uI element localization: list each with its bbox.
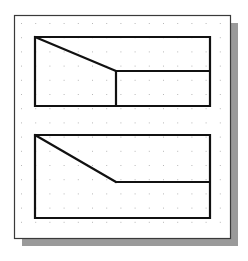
grid-dot bbox=[120, 94, 121, 95]
grid-dot bbox=[120, 51, 121, 52]
grid-dot bbox=[220, 66, 221, 67]
grid-dot bbox=[135, 80, 136, 81]
grid-dot bbox=[21, 165, 22, 166]
grid-dot bbox=[49, 51, 50, 52]
grid-dot bbox=[149, 165, 150, 166]
grid-dot bbox=[64, 122, 65, 123]
grid-dot bbox=[78, 108, 79, 109]
grid-dot bbox=[92, 193, 93, 194]
grid-dot bbox=[135, 137, 136, 138]
grid-dot bbox=[78, 151, 79, 152]
grid-dot bbox=[206, 137, 207, 138]
grid-dot bbox=[191, 208, 192, 209]
grid-dot bbox=[220, 94, 221, 95]
grid-dot bbox=[64, 165, 65, 166]
grid-dot bbox=[163, 222, 164, 223]
grid-dot bbox=[206, 193, 207, 194]
grid-dot bbox=[206, 179, 207, 180]
grid-dot bbox=[120, 165, 121, 166]
grid-dot bbox=[163, 23, 164, 24]
grid-dot bbox=[64, 66, 65, 67]
grid-dot bbox=[220, 37, 221, 38]
grid-dot bbox=[206, 80, 207, 81]
grid-dot bbox=[177, 66, 178, 67]
grid-dot bbox=[21, 179, 22, 180]
grid-dot bbox=[220, 179, 221, 180]
grid-dot bbox=[92, 108, 93, 109]
grid-dot bbox=[78, 137, 79, 138]
grid-dot bbox=[106, 51, 107, 52]
grid-dot bbox=[106, 80, 107, 81]
grid-dot bbox=[78, 94, 79, 95]
grid-dot bbox=[49, 193, 50, 194]
grid-dot bbox=[120, 151, 121, 152]
grid-dot bbox=[135, 23, 136, 24]
grid-dot bbox=[106, 23, 107, 24]
grid-dot bbox=[78, 208, 79, 209]
grid-dot bbox=[191, 94, 192, 95]
grid-dot bbox=[92, 51, 93, 52]
grid-dot bbox=[163, 108, 164, 109]
grid-dot bbox=[191, 165, 192, 166]
grid-dot bbox=[149, 80, 150, 81]
grid-dot bbox=[106, 94, 107, 95]
grid-dot bbox=[149, 179, 150, 180]
grid-dot bbox=[177, 179, 178, 180]
grid-dot bbox=[78, 122, 79, 123]
grid-dot bbox=[177, 208, 178, 209]
grid-dot bbox=[49, 80, 50, 81]
grid-dot bbox=[149, 151, 150, 152]
grid-dot bbox=[92, 94, 93, 95]
grid-dot bbox=[163, 151, 164, 152]
grid-dot bbox=[149, 208, 150, 209]
grid-dot bbox=[163, 122, 164, 123]
grid-dot bbox=[177, 108, 178, 109]
grid-dot bbox=[92, 23, 93, 24]
grid-dot bbox=[135, 193, 136, 194]
grid-dot bbox=[92, 165, 93, 166]
grid-dot bbox=[149, 66, 150, 67]
drawing-frame bbox=[15, 16, 231, 239]
grid-dot bbox=[49, 151, 50, 152]
grid-dot bbox=[92, 179, 93, 180]
grid-dot bbox=[206, 23, 207, 24]
grid-dot bbox=[149, 94, 150, 95]
grid-dot bbox=[64, 108, 65, 109]
grid-dot bbox=[78, 80, 79, 81]
grid-dot bbox=[177, 94, 178, 95]
grid-dot bbox=[135, 66, 136, 67]
grid-dot bbox=[135, 179, 136, 180]
grid-dot bbox=[177, 151, 178, 152]
grid-dot bbox=[35, 222, 36, 223]
grid-dot bbox=[21, 37, 22, 38]
grid-dot bbox=[163, 51, 164, 52]
grid-dot bbox=[149, 137, 150, 138]
grid-dot bbox=[135, 51, 136, 52]
grid-dot bbox=[206, 94, 207, 95]
grid-dot bbox=[177, 222, 178, 223]
grid-dot bbox=[78, 193, 79, 194]
grid-dot bbox=[163, 165, 164, 166]
grid-dot bbox=[78, 179, 79, 180]
grid-dot bbox=[106, 108, 107, 109]
grid-dot bbox=[163, 179, 164, 180]
grid-dot bbox=[120, 66, 121, 67]
grid-dot bbox=[92, 222, 93, 223]
grid-dot bbox=[35, 23, 36, 24]
grid-dot bbox=[177, 80, 178, 81]
grid-dot bbox=[149, 193, 150, 194]
grid-dot bbox=[21, 122, 22, 123]
grid-dot bbox=[163, 208, 164, 209]
grid-dot bbox=[64, 23, 65, 24]
grid-dot bbox=[120, 222, 121, 223]
grid-dot bbox=[64, 51, 65, 52]
grid-dot bbox=[135, 165, 136, 166]
grid-dot bbox=[92, 151, 93, 152]
grid-dot bbox=[21, 66, 22, 67]
grid-dot bbox=[21, 208, 22, 209]
grid-dot bbox=[206, 66, 207, 67]
grid-dot bbox=[220, 151, 221, 152]
grid-dot bbox=[149, 222, 150, 223]
grid-dot bbox=[191, 193, 192, 194]
grid-dot bbox=[106, 208, 107, 209]
